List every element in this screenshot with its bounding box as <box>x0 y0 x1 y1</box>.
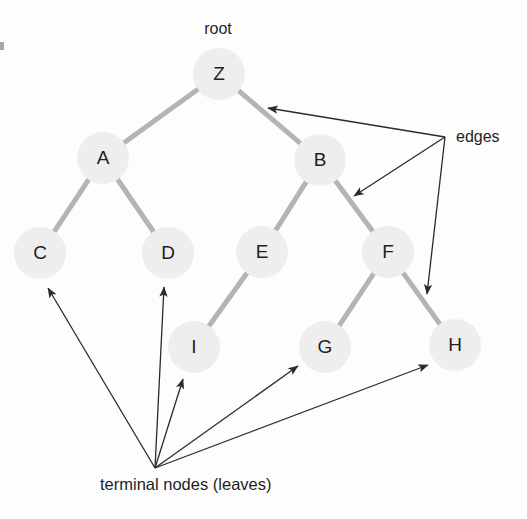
terminal-nodes-caption: terminal nodes (leaves) <box>100 475 272 493</box>
tree-edges-group <box>53 87 442 328</box>
node-label-z: Z <box>213 63 225 84</box>
node-label-b: B <box>314 149 327 170</box>
node-label-a: A <box>97 147 110 168</box>
tree-edge-b-e <box>274 179 307 232</box>
tree-node-g[interactable]: G <box>299 321 351 373</box>
node-label-g: G <box>318 336 333 357</box>
root-annotation-label: root <box>204 20 232 37</box>
tree-edge-e-i <box>207 271 248 329</box>
node-label-i: I <box>191 336 196 357</box>
tree-diagram-svg: ZABCDEFIGH root edges terminal nodes (le… <box>0 0 527 519</box>
tree-edge-f-h <box>401 271 441 327</box>
leaves-pointer-arrow-5 <box>155 365 428 468</box>
node-label-f: F <box>382 241 394 262</box>
node-label-e: E <box>256 241 269 262</box>
tree-edge-f-g <box>338 271 376 328</box>
tree-edge-a-c <box>53 177 91 234</box>
node-label-c: C <box>33 242 47 263</box>
tree-node-f[interactable]: F <box>362 226 414 278</box>
tree-edge-z-b <box>237 89 303 145</box>
tree-node-c[interactable]: C <box>14 227 66 279</box>
tree-node-d[interactable]: D <box>142 227 194 279</box>
tree-node-e[interactable]: E <box>236 226 288 278</box>
tree-edge-z-a <box>122 87 201 144</box>
leaves-pointer-arrow-4 <box>155 366 298 468</box>
node-label-h: H <box>448 334 462 355</box>
tree-edge-a-d <box>116 177 155 234</box>
leaves-pointer-arrow-1 <box>48 288 155 468</box>
edges-pointer-arrow-3 <box>427 137 445 294</box>
tree-node-b[interactable]: B <box>294 134 346 186</box>
edges-pointer-arrow-1 <box>268 108 445 137</box>
tree-node-a[interactable]: A <box>77 132 129 184</box>
tree-node-i[interactable]: I <box>168 321 220 373</box>
edges-pointer-arrow-2 <box>354 137 445 196</box>
tree-diagram-canvas: ZABCDEFIGH root edges terminal nodes (le… <box>0 0 527 519</box>
tree-node-h[interactable]: H <box>429 319 481 371</box>
tree-node-z[interactable]: Z <box>193 48 245 100</box>
edges-annotation-label: edges <box>456 128 500 145</box>
node-label-d: D <box>161 242 175 263</box>
leaves-pointer-arrow-2 <box>155 287 164 468</box>
